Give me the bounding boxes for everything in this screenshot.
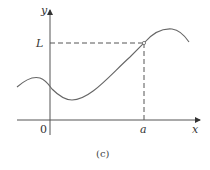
- figure-caption: (c): [96, 148, 110, 159]
- limit-diagram: y x 0 L a (c): [0, 0, 210, 170]
- x-point-label: a: [140, 123, 147, 136]
- origin-label: 0: [40, 123, 47, 136]
- x-axis-label: x: [192, 123, 199, 136]
- limit-point: [142, 41, 145, 44]
- y-axis-label: y: [40, 4, 48, 17]
- limit-value-label: L: [35, 37, 43, 50]
